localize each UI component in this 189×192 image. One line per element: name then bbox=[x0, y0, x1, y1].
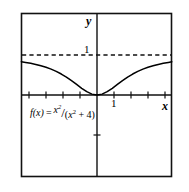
formula-numerator: x2 bbox=[54, 105, 62, 115]
function-graph-figure: y x 1 1 f(x) = x2 / (x2 + 4) bbox=[0, 0, 189, 192]
x-axis-tick-label-1: 1 bbox=[111, 98, 117, 109]
x-axis-label: x bbox=[162, 100, 168, 112]
formula-denominator-rest: + 4) bbox=[76, 109, 95, 120]
graph-canvas bbox=[0, 0, 189, 192]
y-axis-tick-label-1: 1 bbox=[84, 44, 90, 55]
y-axis-label: y bbox=[86, 15, 91, 27]
formula-numerator-exponent: 2 bbox=[58, 102, 61, 109]
formula-equals: = bbox=[46, 108, 52, 118]
function-formula: f(x) = x2 / (x2 + 4) bbox=[30, 106, 95, 119]
formula-function-name: f(x) bbox=[30, 108, 44, 118]
formula-denominator: (x2 + 4) bbox=[65, 110, 95, 120]
